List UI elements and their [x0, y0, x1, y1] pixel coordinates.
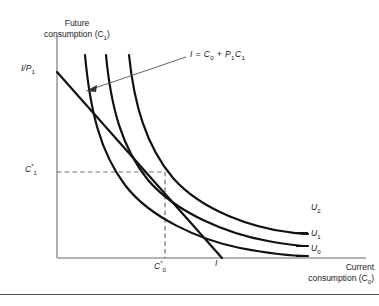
x-axis-label-close: )	[371, 273, 374, 283]
x-axis-label: Current consumption (C0)	[300, 262, 374, 287]
y-intercept-text: I/P	[21, 63, 31, 73]
y-intercept-subscript: 1	[31, 68, 34, 75]
indifference-curve-chart: Future consumption (C1) Current consumpt…	[0, 0, 379, 306]
budget-line	[57, 72, 222, 258]
x-axis-label-line2: consumption (C	[308, 273, 368, 283]
curve-label-u0-subscript: 0	[317, 248, 320, 255]
equation-c1-subscript: 1	[241, 54, 245, 61]
equation-equals: =	[196, 49, 201, 59]
curve-label-u2-subscript: 2	[317, 207, 320, 214]
y-axis-label: Future consumption (C1)	[22, 18, 132, 43]
chart-canvas	[0, 0, 379, 306]
footer-divider	[0, 294, 379, 295]
x-intercept-text: I	[215, 258, 217, 268]
equation-plus: +	[217, 49, 222, 59]
curve-label-u1: U1	[311, 228, 321, 242]
x-tick-c0-subscript: 0	[163, 266, 166, 273]
y-axis-label-close: )	[107, 29, 110, 39]
equation-income: I	[190, 49, 193, 59]
curve-label-u2: U2	[311, 202, 321, 216]
equation-c0-subscript: 0	[210, 54, 214, 61]
y-axis-label-line1: Future	[65, 18, 90, 28]
indifference-curve-u2	[129, 55, 308, 234]
y-axis-label-line2: consumption (C	[44, 29, 104, 39]
budget-line-equation-label: I = C0 + P1C1	[190, 49, 245, 63]
x-axis-label-line1: Current	[346, 262, 374, 272]
y-intercept-label: I/P1	[21, 63, 35, 77]
curve-label-u0: U0	[311, 243, 321, 257]
indifference-curve-u1	[106, 55, 308, 246]
y-tick-c1-subscript: 1	[34, 169, 37, 176]
y-tick-label-c1-star: C*1	[25, 161, 37, 178]
indifference-curve-u0	[85, 55, 308, 256]
x-tick-label-c0-star: C*0	[154, 258, 166, 275]
x-intercept-label: I	[215, 258, 217, 268]
curve-label-u1-subscript: 1	[317, 233, 320, 240]
